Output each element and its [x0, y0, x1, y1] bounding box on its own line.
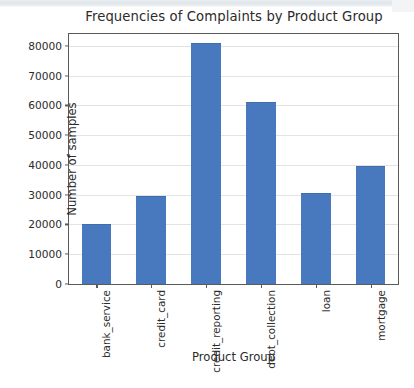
x-tick-mark: [206, 284, 207, 288]
bar: [136, 196, 166, 284]
y-tick-label: 10000: [28, 248, 69, 260]
x-tick-label: bank_service: [100, 290, 112, 358]
bar-chart-figure: Frequencies of Complaints by Product Gro…: [0, 0, 414, 388]
bar-slot: [82, 34, 112, 284]
x-tick-mark: [151, 284, 152, 288]
y-tick-label: 60000: [28, 99, 69, 111]
bar: [301, 193, 331, 284]
x-tick-label: mortgage: [375, 290, 387, 341]
x-tick-label: loan: [320, 290, 332, 312]
bar-slot: [136, 34, 166, 284]
x-tick-label: credit_card: [155, 290, 167, 348]
x-tick-mark: [96, 284, 97, 288]
bar: [356, 166, 386, 284]
bar-slot: [191, 34, 221, 284]
bar-slot: [301, 34, 331, 284]
x-tick-mark: [371, 284, 372, 288]
bar-slot: [356, 34, 386, 284]
plot-area: 0100002000030000400005000060000700008000…: [68, 33, 399, 285]
y-tick-label: 70000: [28, 70, 69, 82]
y-tick-label: 30000: [28, 189, 69, 201]
y-tick-label: 80000: [28, 40, 69, 52]
y-axis-label: Number of samples: [65, 102, 79, 215]
x-axis-label: Product Group: [68, 350, 399, 364]
y-tick-label: 0: [55, 278, 69, 290]
y-tick-label: 50000: [28, 129, 69, 141]
x-tick-mark: [316, 284, 317, 288]
y-tick-label: 20000: [28, 218, 69, 230]
y-tick-label: 40000: [28, 159, 69, 171]
chart-title: Frequencies of Complaints by Product Gro…: [68, 9, 400, 24]
bar-slot: [246, 34, 276, 284]
x-tick-mark: [261, 284, 262, 288]
bar: [191, 43, 221, 284]
bar-series: [69, 34, 398, 284]
bar: [246, 102, 276, 284]
bar: [82, 224, 112, 284]
